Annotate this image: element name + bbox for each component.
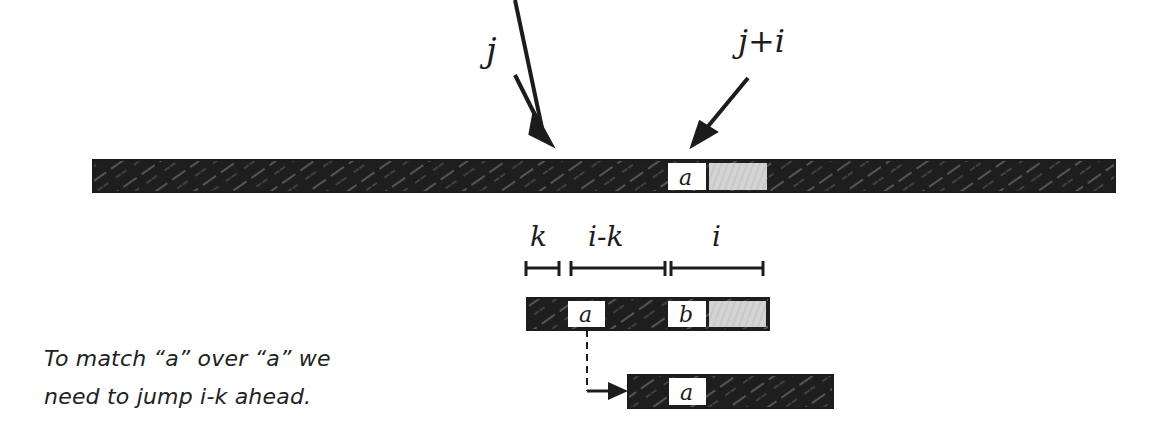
interval-i-bracket: [671, 261, 763, 276]
caption: To match “a” over “a” we need to jump i-…: [44, 340, 464, 416]
pattern-bar-matched-region: [709, 301, 766, 327]
caption-line-1: To match “a” over “a” we: [44, 340, 464, 378]
interval-i-label: i: [712, 220, 721, 253]
interval-i-minus-k-label: i-k: [588, 220, 623, 253]
pointer-j-plus-i-label: j+i: [732, 22, 785, 60]
pattern-bar-cell-a-label: a: [579, 302, 592, 327]
pointer-j-arrow-icon: [515, 0, 552, 145]
pointer-j-plus-i-arrow-icon: [692, 78, 748, 146]
shifted-bar-cell-a-label: a: [680, 380, 693, 405]
shifted-pattern-bar: a: [628, 375, 833, 408]
pattern-bar: a b: [527, 298, 769, 330]
pattern-bar-cell-b-label: b: [679, 302, 693, 327]
interval-i-minus-k-bracket: [571, 261, 665, 276]
text-bar: a: [93, 160, 1115, 192]
shift-arrow-icon: [587, 330, 628, 400]
interval-k-bracket: [526, 261, 559, 276]
interval-k-label: k: [530, 220, 547, 253]
caption-line-2: need to jump i-k ahead.: [44, 378, 464, 416]
pointer-j-label: j: [479, 30, 497, 70]
text-bar-cell-a-label: a: [679, 165, 692, 190]
text-bar-matched-region: [709, 163, 767, 190]
